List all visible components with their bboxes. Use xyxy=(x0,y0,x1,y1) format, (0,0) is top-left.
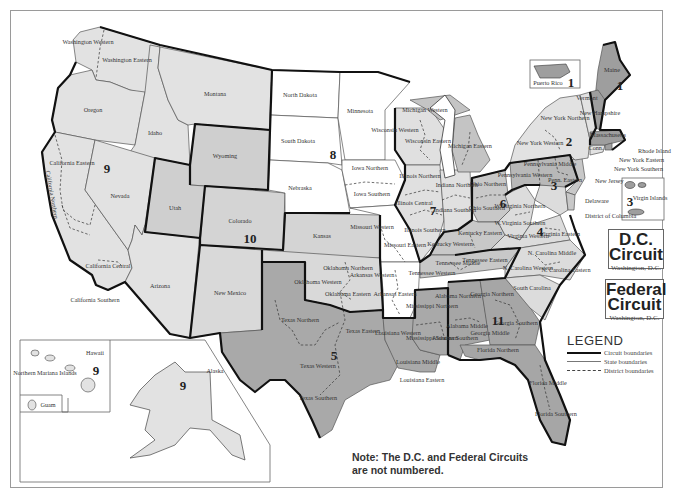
label-colorado: Colorado xyxy=(228,217,251,224)
circuit-number-6: 6 xyxy=(500,196,507,211)
dc-circuit-title-2: Circuit xyxy=(609,245,663,264)
circuit-number-ak: 9 xyxy=(180,378,187,393)
label-hawaii: Hawaii xyxy=(86,349,104,356)
district-boundary-swatch xyxy=(567,370,601,371)
circuit-map: Washington Western Washington Eastern Or… xyxy=(0,0,673,503)
circuit-number-7: 7 xyxy=(430,203,437,218)
label-fl-s: Florida Southern xyxy=(535,410,577,417)
label-ok-n: Oklahoma Northern xyxy=(323,264,373,271)
label-ky-e: Kentucky Eastern xyxy=(458,229,502,236)
label-wyoming: Wyoming xyxy=(213,152,237,159)
label-nmi: Northern Mariana Islands xyxy=(13,369,77,376)
label-wi-e: Wisconsin Eastern xyxy=(405,137,451,144)
vi-island-2 xyxy=(638,183,646,188)
legend-item-state: State boundaries xyxy=(567,357,663,366)
label-new-mexico: New Mexico xyxy=(214,289,246,296)
label-idaho: Idaho xyxy=(148,129,162,136)
legend-item-circuit: Circuit boundaries xyxy=(567,348,663,357)
hawaii-island-1 xyxy=(31,350,39,356)
label-delaware: Delaware xyxy=(585,197,609,204)
new-york-state xyxy=(510,95,590,163)
note-line-1: Note: The D.C. and Federal Circuits xyxy=(352,451,528,464)
label-wa-w: Washington Western xyxy=(63,38,114,45)
label-tn-w: Tennessee Western xyxy=(409,269,456,276)
circuit-number-8: 8 xyxy=(330,147,337,162)
label-ca-s: California Southern xyxy=(71,296,120,303)
circuit-number-hi: 9 xyxy=(93,363,100,378)
label-dc: District of Columbia xyxy=(585,212,636,219)
legend-label-circuit: Circuit boundaries xyxy=(604,349,652,356)
federal-circuit-box: Federal Circuit Washington, D.C. xyxy=(605,279,664,319)
label-pa-w: Pennsylvania Western xyxy=(498,171,553,178)
label-ga-m: Georgia Middle xyxy=(470,329,509,336)
label-arizona: Arizona xyxy=(150,282,170,289)
label-fl-n: Florida Northern xyxy=(477,346,519,353)
label-al-m: Alabama Middle xyxy=(446,322,488,329)
label-utah: Utah xyxy=(169,204,182,211)
label-nd: North Dakota xyxy=(283,91,317,98)
label-ms-n: Mississippi Northern xyxy=(406,302,458,309)
label-guam: Guam xyxy=(40,401,55,408)
circuit-number-pr: 1 xyxy=(568,75,575,90)
label-tx-n: Texas Northern xyxy=(281,316,319,323)
circuit-number-5: 5 xyxy=(331,348,338,363)
label-mass: Massachusetts xyxy=(590,131,626,138)
label-tx-s: Texas Southern xyxy=(299,394,337,401)
label-ar-w: Arkansas Western xyxy=(350,271,395,278)
label-ia-s: Iowa Southern xyxy=(354,190,390,197)
label-puerto-rico: Puerto Rico xyxy=(533,79,562,86)
label-fl-m: Florida Middle xyxy=(529,379,567,386)
label-tx-w: Texas Western xyxy=(300,362,336,369)
label-oh-n: Ohio Northern xyxy=(470,180,506,187)
label-ar-e: Arkansas Eastern xyxy=(373,290,416,297)
label-sd: South Dakota xyxy=(281,137,315,144)
label-mi-e: Michigan Eastern xyxy=(448,142,492,149)
label-vermont: Vermont xyxy=(576,94,598,101)
note: Note: The D.C. and Federal Circuits are … xyxy=(352,451,528,477)
label-mo-w: Missouri Western xyxy=(350,223,394,230)
label-ia-n: Iowa Northern xyxy=(352,164,388,171)
label-tn-e: Tennessee Eastern xyxy=(462,256,507,263)
label-nj: New Jersey xyxy=(595,177,625,184)
label-ny-w: New York Western xyxy=(517,139,564,146)
label-ca-e: California Eastern xyxy=(49,159,94,166)
legend: LEGEND Circuit boundaries State boundari… xyxy=(567,333,663,375)
label-virgin-islands: Virgin Islands xyxy=(633,194,668,201)
label-va-e: Virginia Eastern xyxy=(540,230,580,237)
circuit-number-11: 11 xyxy=(492,313,504,328)
circuit-number-1: 1 xyxy=(617,78,624,93)
federal-circuit-location: Washington, D.C. xyxy=(606,314,663,322)
label-sc: South Carolina xyxy=(513,284,551,291)
kansas-state xyxy=(283,213,380,258)
federal-circuit-title-2: Circuit xyxy=(606,295,663,314)
label-il-c: Illinois Central xyxy=(395,199,433,206)
label-ky-w: Kentucky Western xyxy=(427,240,473,247)
state-boundary-swatch xyxy=(567,361,601,362)
label-wa-e: Washington Eastern xyxy=(102,56,152,63)
hawaii-big-island xyxy=(81,378,95,392)
label-oregon: Oregon xyxy=(84,106,103,113)
label-nebraska: Nebraska xyxy=(288,184,312,191)
label-alaska: Alaska xyxy=(206,367,223,374)
circuit-number-2: 2 xyxy=(566,134,573,149)
circuit-number-3: 3 xyxy=(551,178,558,193)
vi-island-1 xyxy=(625,182,635,189)
label-nh: New Hampshire xyxy=(580,109,621,116)
label-la-e: Louisiana Eastern xyxy=(400,376,445,383)
delaware-state xyxy=(566,192,575,210)
label-maine: Maine xyxy=(604,66,620,73)
label-nc-m: N. Carolina Middle xyxy=(528,249,577,256)
label-mi-w: Michigan Western xyxy=(402,106,447,113)
note-line-2: are not numbered. xyxy=(352,464,528,477)
circuit-number-9: 9 xyxy=(104,161,111,176)
circuit-number-10: 10 xyxy=(244,231,257,246)
label-il-n: Illinois Northern xyxy=(399,172,440,179)
label-ok-e: Oklahoma Eastern xyxy=(325,290,371,297)
label-ny-s: New York Southern xyxy=(614,165,663,172)
label-nc-e: N. Carolina Eastern xyxy=(542,266,591,273)
label-nevada: Nevada xyxy=(111,192,130,199)
circuit-boundary-swatch xyxy=(567,352,601,354)
legend-label-state: State boundaries xyxy=(604,358,647,365)
label-ok-w: Oklahoma Western xyxy=(294,278,341,285)
label-ri: Rhode Island xyxy=(638,147,672,154)
